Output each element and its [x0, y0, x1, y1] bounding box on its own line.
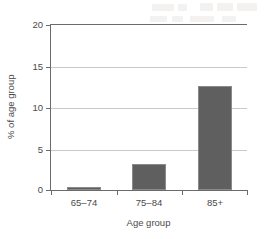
y-tick-20: [46, 25, 51, 26]
bar-85-plus: [198, 86, 232, 190]
x-tick-3: [247, 190, 248, 195]
y-tick-label-15: 15: [32, 62, 43, 72]
y-tick-label-5: 5: [38, 145, 43, 155]
bar-75-84: [132, 164, 166, 190]
gridline-15: [51, 67, 247, 68]
y-tick-10: [46, 108, 51, 109]
x-tick-label-75-84: 75–84: [136, 198, 162, 208]
bar-65-74: [67, 187, 101, 190]
y-tick-5: [46, 150, 51, 151]
x-tick-label-65-74: 65–74: [71, 198, 97, 208]
y-tick-label-0: 0: [38, 185, 43, 195]
x-tick-label-85-plus: 85+: [207, 198, 223, 208]
y-tick-15: [46, 67, 51, 68]
x-axis-title: Age group: [50, 218, 247, 228]
x-tick-2: [182, 190, 183, 195]
y-axis-title-text: % of age group: [6, 75, 16, 139]
y-tick-label-20: 20: [32, 20, 43, 30]
axis-baseline: [51, 190, 247, 191]
plot-area: 20 15 10 5 0 65–74 75–84 85+: [50, 24, 247, 190]
y-tick-label-10: 10: [32, 103, 43, 113]
bar-chart: % of age group 20 15 10 5 0 65–74 75–84 …: [0, 0, 267, 239]
x-tick-0: [51, 190, 52, 195]
x-tick-1: [117, 190, 118, 195]
y-axis-title: % of age group: [4, 24, 18, 190]
